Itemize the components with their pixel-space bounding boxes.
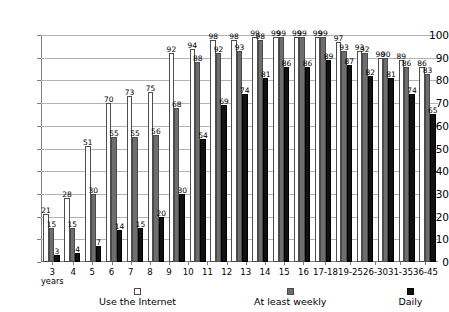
bar-group: 999881 [250, 35, 271, 262]
x-axis-tick-label: 6 [102, 267, 121, 277]
x-axis-category: 12 [217, 263, 236, 289]
bar-value-label: 70 [104, 96, 114, 104]
x-axis-tick-mark [284, 262, 285, 265]
x-axis-category: 5 [83, 263, 102, 289]
bar[interactable]: 69 [221, 105, 226, 262]
x-axis-category: 9 [159, 263, 178, 289]
bar-value-label: 54 [198, 132, 208, 140]
x-axis-tick-mark [375, 262, 376, 265]
bar[interactable]: 81 [388, 78, 393, 262]
x-axis-tick-label: 10 [179, 267, 198, 277]
bar[interactable]: 4 [75, 253, 80, 262]
x-axis-unit-label: years [41, 277, 64, 286]
bar-value-label: 90 [381, 51, 391, 59]
x-axis-category: 8 [140, 263, 159, 289]
bar-group: 21153 [41, 35, 62, 262]
bar-value-label: 15 [136, 221, 146, 229]
legend-item[interactable]: Daily [398, 288, 422, 312]
bar-group: 28154 [62, 35, 83, 262]
x-axis-tick-label: 15 [275, 267, 294, 277]
bar[interactable]: 87 [347, 65, 352, 262]
bar-group: 999986 [271, 35, 292, 262]
x-axis-tick-mark [325, 262, 326, 265]
bar-value-label: 82 [365, 69, 375, 77]
x-axis-category: 16 [294, 263, 313, 289]
bar-value-label: 74 [407, 87, 417, 95]
bar-group: 926830 [166, 35, 187, 262]
bar-value-label: 88 [193, 55, 203, 63]
bar-group: 868365 [417, 35, 438, 262]
x-axis-tick-label: 13 [236, 267, 255, 277]
bar[interactable]: 74 [409, 94, 414, 262]
bar-value-label: 98 [256, 33, 266, 41]
bar-value-label: 3 [54, 248, 59, 256]
bar-value-label: 89 [324, 53, 334, 61]
bar[interactable]: 20 [159, 217, 164, 262]
bar-value-label: 92 [214, 46, 224, 54]
x-axis-tick-mark [400, 262, 401, 265]
x-axis-tick-label: 14 [255, 267, 274, 277]
bar[interactable]: 86 [284, 67, 289, 262]
bar-group: 898674 [396, 35, 417, 262]
x-axis-category: 17-18 [313, 263, 338, 289]
x-axis-category: 36-45 [413, 263, 438, 289]
bar-value-label: 99 [318, 30, 328, 38]
x-axis-category: 3years [41, 263, 64, 289]
x-axis-tick-mark [350, 262, 351, 265]
x-axis-tick-label: 12 [217, 267, 236, 277]
bar-value-label: 99 [276, 30, 286, 38]
bar[interactable]: 3 [54, 255, 59, 262]
x-axis-category: 26-30 [363, 263, 388, 289]
bar[interactable]: 54 [200, 139, 205, 262]
x-axis-category: 7 [121, 263, 140, 289]
bar[interactable]: 81 [263, 78, 268, 262]
bar-group: 735515 [125, 35, 146, 262]
bar-value-label: 55 [109, 130, 119, 138]
x-axis-tick-mark [227, 262, 228, 265]
x-axis-tick-label: 19-25 [338, 267, 363, 277]
bar[interactable]: 89 [326, 60, 331, 262]
x-axis-tick-label: 16 [294, 267, 313, 277]
bar[interactable]: 14 [117, 230, 122, 262]
bar[interactable]: 15 [138, 228, 143, 262]
legend-swatch-icon [407, 288, 414, 295]
legend-item[interactable]: At least weekly [254, 288, 326, 312]
x-axis-tick-mark [112, 262, 113, 265]
bar-value-label: 92 [360, 46, 370, 54]
bar[interactable]: 86 [305, 67, 310, 262]
bar[interactable]: 7 [96, 246, 101, 262]
bar[interactable]: 82 [368, 76, 373, 262]
x-axis-tick-label: 11 [198, 267, 217, 277]
legend-label: At least weekly [254, 296, 326, 307]
bar-value-label: 86 [282, 60, 292, 68]
bar-value-label: 7 [96, 239, 101, 247]
bar-value-label: 51 [83, 139, 93, 147]
x-axis-tick-mark [169, 262, 170, 265]
bar-group: 909081 [375, 35, 396, 262]
bar-value-label: 15 [47, 221, 57, 229]
bar-value-label: 68 [172, 101, 182, 109]
bar-value-label: 81 [386, 71, 396, 79]
legend-swatch-icon [287, 288, 294, 295]
bar-value-label: 14 [115, 223, 125, 231]
x-axis-category: 13 [236, 263, 255, 289]
x-axis-tick-label: 26-30 [363, 267, 388, 277]
bar-value-label: 28 [62, 191, 72, 199]
bar[interactable]: 65 [430, 114, 435, 262]
bar[interactable]: 74 [242, 94, 247, 262]
x-axis-tick-label: 17-18 [313, 267, 338, 277]
x-axis-tick-mark [73, 262, 74, 265]
x-axis-tick-label: 36-45 [413, 267, 438, 277]
bar[interactable]: 30 [179, 194, 184, 262]
bar-value-label: 94 [188, 42, 198, 50]
bar-value-label: 69 [219, 98, 229, 106]
x-axis-tick-mark [52, 262, 53, 265]
bar-value-label: 15 [68, 221, 78, 229]
x-axis-tick-mark [303, 262, 304, 265]
bar-value-label: 97 [334, 35, 344, 43]
bar-value-label: 4 [75, 246, 80, 254]
bar-value-label: 65 [428, 107, 438, 115]
legend-item[interactable]: Use the Internet [99, 288, 176, 312]
chart-legend: Use the InternetAt least weeklyDaily [41, 288, 438, 312]
x-axis-tick-mark [246, 262, 247, 265]
